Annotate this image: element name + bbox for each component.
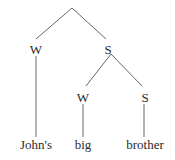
node-s-right: S bbox=[104, 42, 111, 57]
edge-root-w bbox=[36, 8, 72, 39]
node-w-left: W bbox=[30, 42, 43, 57]
edge-s-w bbox=[86, 54, 111, 86]
word-brother: brother bbox=[126, 137, 164, 152]
word-johns: John's bbox=[20, 137, 52, 152]
edge-root-s bbox=[72, 8, 106, 39]
node-w-inner: W bbox=[77, 90, 90, 105]
word-big: big bbox=[75, 137, 92, 152]
edge-s-s bbox=[111, 54, 142, 86]
metrical-tree-diagram: W S W S John's big brother bbox=[0, 0, 175, 160]
node-s-inner: S bbox=[141, 90, 148, 105]
